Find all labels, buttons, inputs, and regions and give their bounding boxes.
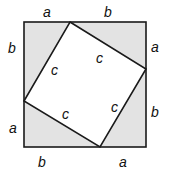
label-right-b: b	[151, 104, 159, 120]
label-top-b: b	[104, 4, 112, 20]
label-top-a: a	[43, 4, 51, 20]
label-c-top: c	[96, 50, 103, 66]
pythagoras-diagram: a b b a a b b a c c c c	[0, 0, 171, 174]
label-left-b: b	[8, 40, 16, 56]
label-c-right: c	[111, 99, 118, 115]
label-c-left: c	[51, 62, 58, 78]
label-right-a: a	[151, 39, 159, 55]
label-left-a: a	[9, 120, 17, 136]
label-bottom-a: a	[119, 154, 127, 170]
label-bottom-b: b	[38, 154, 46, 170]
label-c-bottom: c	[62, 106, 69, 122]
